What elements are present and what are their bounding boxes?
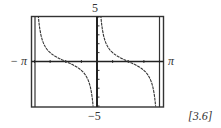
x-max-label: π bbox=[168, 55, 174, 67]
y-min-label: −5 bbox=[88, 110, 101, 122]
x-min-label: − π bbox=[10, 55, 27, 67]
y-max-label: 5 bbox=[92, 2, 98, 14]
plot-axes bbox=[32, 17, 164, 108]
figure-reference: [3.6] bbox=[188, 110, 212, 122]
curve-branch-right bbox=[97, 0, 159, 128]
